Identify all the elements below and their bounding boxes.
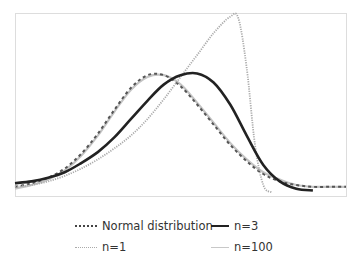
legend-label: n=100 (234, 240, 273, 254)
solid-line-swatch-icon (211, 225, 229, 227)
legend-item-n1: n=1 (75, 240, 126, 254)
light-solid-line-swatch-icon (211, 247, 229, 248)
dotted-line-swatch-icon (75, 225, 97, 227)
legend-item-normal: Normal distribution (75, 219, 213, 233)
light-dotted-line-swatch-icon (75, 247, 97, 248)
legend-label: n=1 (102, 240, 126, 254)
legend-item-n100: n=100 (211, 240, 273, 254)
legend-item-n3: n=3 (211, 219, 258, 233)
legend-label: Normal distribution (102, 219, 213, 233)
chart-plot-area (0, 0, 361, 200)
legend-label: n=3 (234, 219, 258, 233)
